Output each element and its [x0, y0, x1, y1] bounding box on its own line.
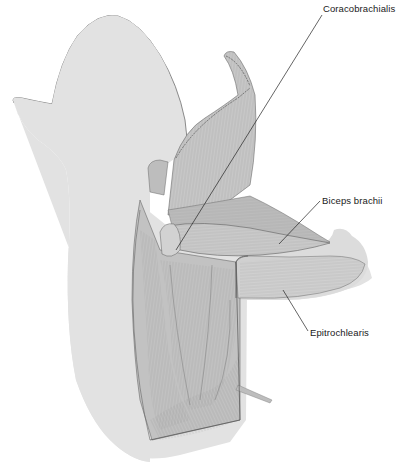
epitrochlearis-fibers — [240, 256, 365, 298]
anatomy-illustration — [0, 0, 402, 465]
coracobrachialis-muscle — [160, 224, 180, 257]
tendon-stub — [148, 160, 168, 195]
label-biceps-brachii: Biceps brachii — [322, 196, 383, 206]
label-epitrochlearis: Epitrochlearis — [310, 328, 369, 338]
label-coracobrachialis: Coracobrachialis — [323, 4, 395, 14]
